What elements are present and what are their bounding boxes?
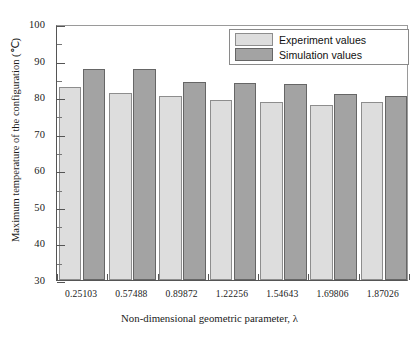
x-tick-label: 1.69806 xyxy=(307,289,357,299)
y-tick-minor xyxy=(57,154,62,155)
x-tick xyxy=(359,274,360,280)
y-tick-minor xyxy=(57,81,62,82)
y-tick-major xyxy=(57,282,65,283)
legend-swatch-simulation-icon xyxy=(235,48,273,61)
y-tick-major xyxy=(57,99,65,100)
x-tick-label: 1.54643 xyxy=(257,289,307,299)
y-tick-minor xyxy=(57,117,62,118)
y-tick-label: 90 xyxy=(0,57,45,68)
legend-label-simulation: Simulation values xyxy=(279,49,362,61)
y-tick-label: 50 xyxy=(0,203,45,214)
y-tick-label: 40 xyxy=(0,239,45,250)
x-tick-label: 0.57488 xyxy=(106,289,156,299)
x-tick xyxy=(107,274,108,280)
y-tick-major xyxy=(57,209,65,210)
x-axis-title: Non-dimensional geometric parameter, λ xyxy=(0,312,419,324)
y-tick-label: 70 xyxy=(0,130,45,141)
plot-area: Experiment values Simulation values xyxy=(56,25,408,281)
bar-simulation xyxy=(334,94,357,280)
bar-chart: Maximum temperature of the configuration… xyxy=(0,0,419,338)
x-tick-label: 0.25103 xyxy=(56,289,106,299)
y-tick-label: 30 xyxy=(0,276,45,287)
legend: Experiment values Simulation values xyxy=(229,29,409,65)
y-tick-major xyxy=(57,172,65,173)
x-tick xyxy=(158,274,159,280)
bar-simulation xyxy=(385,96,408,280)
y-tick-major xyxy=(57,245,65,246)
bar-experiment xyxy=(159,96,182,280)
bar-simulation xyxy=(183,82,206,280)
y-tick-minor xyxy=(57,191,62,192)
y-tick-label: 60 xyxy=(0,166,45,177)
y-tick-label: 80 xyxy=(0,93,45,104)
x-tick-label: 0.89872 xyxy=(157,289,207,299)
x-tick xyxy=(57,274,58,280)
y-tick-major xyxy=(57,136,65,137)
x-tick-label: 1.22256 xyxy=(207,289,257,299)
y-tick-major xyxy=(57,26,65,27)
x-tick-label: 1.87026 xyxy=(358,289,408,299)
bar-experiment xyxy=(361,102,384,280)
y-tick-minor xyxy=(57,264,62,265)
y-tick-major xyxy=(57,63,65,64)
x-tick xyxy=(409,274,410,280)
legend-item-experiment: Experiment values xyxy=(233,32,405,47)
y-tick-label: 100 xyxy=(0,20,45,31)
bar-simulation xyxy=(133,69,156,280)
legend-label-experiment: Experiment values xyxy=(279,34,366,46)
y-tick-minor xyxy=(57,44,62,45)
bar-simulation xyxy=(284,84,307,280)
legend-item-simulation: Simulation values xyxy=(233,47,405,62)
bar-experiment xyxy=(210,100,233,280)
bar-experiment xyxy=(59,87,82,280)
bar-experiment xyxy=(310,105,333,280)
bar-simulation xyxy=(234,83,257,280)
x-tick xyxy=(208,274,209,280)
x-tick xyxy=(258,274,259,280)
bar-experiment xyxy=(260,102,283,280)
legend-swatch-experiment-icon xyxy=(235,33,273,46)
bar-experiment xyxy=(109,93,132,280)
y-tick-minor xyxy=(57,227,62,228)
bar-simulation xyxy=(83,69,106,280)
x-tick xyxy=(308,274,309,280)
